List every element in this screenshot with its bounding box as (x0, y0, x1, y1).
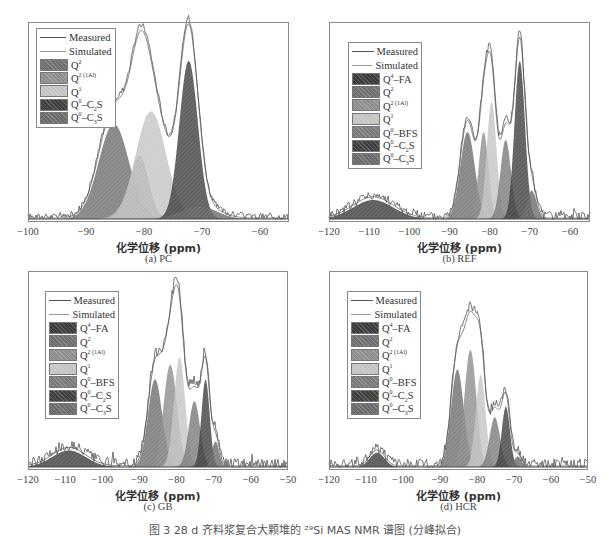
legend-line-icon (49, 314, 69, 315)
legend-item: Q0–C2S (352, 139, 418, 152)
legend-swatch-icon (351, 376, 379, 388)
legend-item: Q4–FA (351, 321, 417, 335)
legend: MeasuredSimulatedQ4–FAQ2Q2 (1Al)Q1Q0–BFS… (347, 291, 421, 419)
legend-label: Q0–C2S (80, 389, 112, 403)
legend-label: Q0–C2S (383, 139, 415, 153)
x-tick-label: −50 (580, 474, 596, 485)
x-tick-label: −50 (280, 474, 296, 485)
x-tick-label: −70 (194, 226, 210, 237)
x-tick-label: −60 (243, 474, 259, 485)
x-tick-label: −120 (17, 474, 39, 485)
legend-swatch-icon (351, 363, 379, 375)
legend-label: Q2 (71, 59, 82, 71)
legend-swatch-icon (352, 73, 380, 85)
legend-line-icon (49, 300, 71, 301)
legend-item: Q1 (352, 112, 418, 125)
x-tick-label: −100 (392, 474, 414, 485)
x-tick-label: −90 (441, 226, 457, 237)
legend-label: Q0–C3S (383, 152, 415, 166)
x-tick-label: −120 (318, 474, 340, 485)
legend-swatch-icon (351, 322, 379, 334)
legend-item: Q2 (1Al) (352, 99, 418, 112)
x-tick-label: −110 (355, 474, 376, 485)
legend-label: Measured (377, 46, 418, 57)
legend-item: Q1 (49, 362, 115, 376)
legend-item: Q0–BFS (351, 375, 417, 389)
legend-label: Q1 (383, 113, 394, 125)
legend-item: Q2 (351, 335, 417, 349)
legend-item: Measured (352, 45, 418, 58)
legend-label: Q0–C2S (71, 98, 103, 112)
panel-label: (d) HCR (440, 501, 476, 512)
legend-label: Q0–C3S (382, 402, 414, 416)
legend-label: Q1 (71, 86, 82, 98)
x-tick-label: −60 (562, 226, 578, 237)
legend-label: Q4–FA (383, 73, 412, 85)
legend-label: Q2 (1Al) (382, 349, 407, 361)
legend-swatch-icon (49, 349, 77, 361)
legend-item: Q2 (1Al) (40, 71, 112, 84)
legend-swatch-icon (40, 99, 68, 111)
legend-swatch-icon (49, 390, 77, 402)
legend-item: Measured (40, 31, 112, 44)
legend-swatch-icon (351, 335, 379, 347)
legend-item: Q0–C3S (40, 112, 112, 125)
legend-label: Q0–C3S (71, 111, 103, 125)
x-tick-label: −100 (91, 474, 113, 485)
legend-swatch-icon (352, 113, 380, 125)
legend-item: Q2 (40, 58, 112, 71)
x-tick-label: −80 (469, 474, 485, 485)
x-tick-label: −70 (506, 474, 522, 485)
legend-swatch-icon (352, 153, 380, 165)
legend-item: Q2 (1Al) (49, 348, 115, 362)
x-tick-label: −90 (432, 474, 448, 485)
legend-item: Measured (49, 294, 115, 308)
x-tick-label: −80 (136, 226, 152, 237)
legend-line-icon (352, 51, 374, 52)
x-tick-label: −90 (78, 226, 94, 237)
legend-item: Q0–C2S (40, 98, 112, 111)
x-tick-label: −60 (543, 474, 559, 485)
legend-item: Simulated (351, 308, 417, 322)
legend-swatch-icon (351, 390, 379, 402)
legend-label: Q4–FA (382, 322, 411, 334)
legend-item: Q2 (1Al) (351, 348, 417, 362)
legend-swatch-icon (49, 403, 77, 415)
legend-label: Q1 (382, 363, 393, 375)
x-tick-label: −110 (54, 474, 75, 485)
legend-item: Q1 (351, 362, 417, 376)
legend-item: Simulated (352, 58, 418, 71)
legend-label: Measured (74, 295, 115, 306)
legend-line-icon (40, 37, 66, 38)
legend-label: Q2 (1Al) (71, 72, 96, 84)
legend-swatch-icon (351, 349, 379, 361)
legend-label: Q0–C2S (382, 389, 414, 403)
legend-swatch-icon (49, 335, 77, 347)
legend-swatch-icon (352, 126, 380, 138)
figure-caption: 图 3 28 d 齐料浆复合大颗堆的 ²⁹Si MAS NMR 谱图 (分峰拟合… (0, 521, 610, 537)
x-tick-label: −70 (205, 474, 221, 485)
x-tick-label: −100 (17, 226, 39, 237)
legend-label: Simulated (72, 309, 115, 320)
legend-swatch-icon (40, 72, 68, 84)
legend-item: Q0–BFS (49, 375, 115, 389)
legend-swatch-icon (40, 85, 68, 97)
legend-swatch-icon (49, 376, 77, 388)
legend-swatch-icon (351, 403, 379, 415)
legend-line-icon (352, 65, 372, 66)
panel-label: (a) PC (145, 253, 172, 264)
legend-label: Q2 (80, 336, 91, 348)
legend-item: Q1 (40, 85, 112, 98)
legend: MeasuredSimulatedQ4–FAQ2Q2 (1Al)Q1Q0–BFS… (348, 42, 422, 169)
legend-label: Q4–FA (80, 322, 109, 334)
panel-label: (c) GB (144, 501, 173, 512)
legend-item: Q0–C3S (49, 402, 115, 416)
x-tick-label: −60 (252, 226, 268, 237)
legend-item: Q4–FA (49, 321, 115, 335)
legend-label: Simulated (374, 309, 417, 320)
legend-item: Q4–FA (352, 72, 418, 85)
legend-label: Simulated (69, 46, 112, 57)
legend-swatch-icon (40, 112, 68, 124)
legend-swatch-icon (352, 99, 380, 111)
legend-line-icon (351, 314, 371, 315)
